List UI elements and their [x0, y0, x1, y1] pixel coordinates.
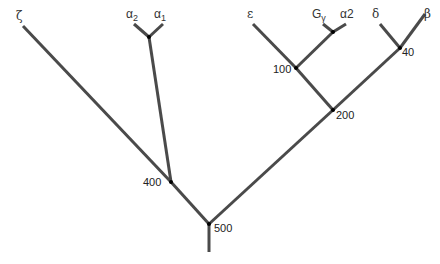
leaf-label-alpha1: α1 — [154, 7, 166, 23]
phylogenetic-tree: 50040020010040 ζα2α1εGγα2δβ — [0, 0, 440, 264]
leaf-label-beta: β — [424, 7, 431, 21]
node-dot-n200 — [331, 108, 335, 112]
branch-ngamma-alpha2b — [333, 24, 346, 32]
leaf-label-epsilon: ε — [247, 7, 253, 21]
leaf-label-alpha2: α2 — [126, 7, 138, 23]
branch-n200-n100 — [296, 68, 333, 110]
branch-n40-delta — [380, 24, 400, 48]
branch-nalpha-alpha2 — [134, 24, 149, 37]
branch-n500-n200 — [209, 110, 333, 224]
node-dot-n100 — [294, 66, 298, 70]
leaf-label-ggamma: Gγ — [312, 7, 326, 23]
branch-n100-epsilon — [253, 24, 296, 68]
leaf-labels: ζα2α1εGγα2δβ — [16, 7, 431, 23]
node-dot-n500 — [207, 222, 211, 226]
node-dot-n400 — [169, 180, 173, 184]
branch-n200-n40 — [333, 48, 400, 110]
branch-n40-beta — [400, 14, 425, 48]
node-label-n200: 200 — [336, 109, 354, 121]
node-label-n500: 500 — [214, 222, 232, 234]
branch-nalpha-alpha1 — [149, 24, 163, 37]
leaf-label-delta: δ — [372, 7, 379, 21]
node-label-n400: 400 — [143, 176, 161, 188]
node-dot-nalpha — [147, 35, 151, 39]
node-label-n40: 40 — [402, 46, 414, 58]
tree-branches — [23, 14, 425, 224]
branch-n400-zeta — [23, 26, 171, 182]
node-dot-ngamma — [331, 30, 335, 34]
node-label-n100: 100 — [273, 63, 291, 75]
branch-n500-n400 — [171, 182, 209, 224]
leaf-label-alpha2b: α2 — [340, 7, 354, 21]
leaf-label-zeta: ζ — [16, 9, 23, 23]
branch-n100-ngamma — [296, 32, 333, 68]
